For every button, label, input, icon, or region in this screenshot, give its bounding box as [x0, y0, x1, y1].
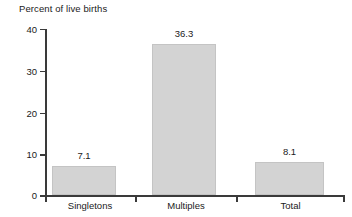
x-label-multiples: Multiples [136, 200, 236, 211]
y-tick-mark-10 [40, 154, 45, 155]
y-tick-mark-40 [40, 29, 45, 30]
y-tick-mark-30 [40, 71, 45, 72]
y-axis-line [45, 29, 47, 197]
bar-chart: Percent of live births 40 30 20 10 0 7.1… [0, 0, 352, 217]
y-tick-label-30: 30 [15, 66, 37, 77]
bar-singletons [52, 166, 116, 196]
y-tick-label-0: 0 [15, 190, 37, 201]
x-label-singletons: Singletons [45, 200, 135, 211]
bar-value-singletons: 7.1 [52, 150, 116, 161]
y-tick-label-40: 40 [15, 24, 37, 35]
y-tick-label-20: 20 [15, 108, 37, 119]
bar-value-multiples: 36.3 [152, 28, 216, 39]
bar-multiples [152, 44, 216, 196]
bar-value-total: 8.1 [255, 146, 324, 157]
y-tick-label-10: 10 [15, 149, 37, 160]
y-tick-mark-20 [40, 113, 45, 114]
bar-total [255, 162, 324, 196]
x-label-total: Total [237, 200, 344, 211]
chart-title: Percent of live births [19, 3, 107, 14]
x-axis-line [45, 195, 345, 197]
